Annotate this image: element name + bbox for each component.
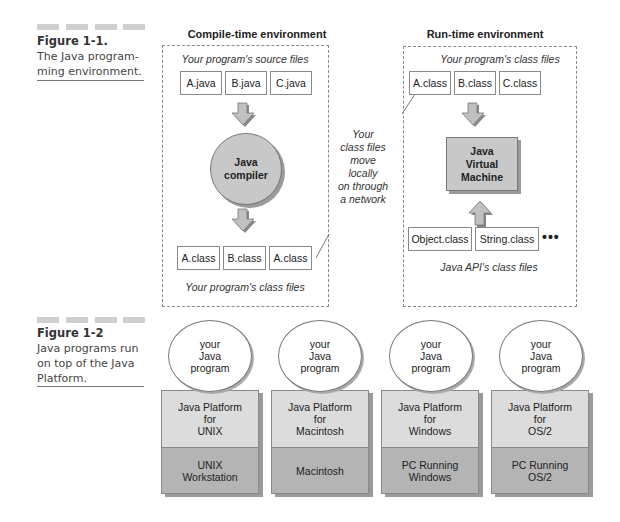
platform-label-line: Java Platform [398, 401, 462, 413]
jvm-label-line: Virtual [466, 158, 498, 171]
figure2-caption-line: Platform. [37, 371, 87, 386]
program-label-line: program [521, 362, 560, 374]
runtime-class-file-box: B.class [454, 71, 496, 95]
program-label-line: Java [309, 350, 331, 362]
platform-label-line: for [314, 413, 326, 425]
platform-label-line: Java Platform [178, 401, 242, 413]
api-class-file-box: String.class [475, 227, 539, 251]
compiler-label-line: compiler [224, 169, 268, 182]
down-arrow-icon [230, 102, 262, 130]
java-platform-layer: Java Platform for Macintosh [271, 390, 369, 448]
down-arrow-icon [460, 102, 492, 130]
caption-rule [37, 80, 144, 81]
runtime-class-file-box: C.class [499, 71, 541, 95]
ellipsis-icon: ••• [542, 229, 560, 245]
compiler-label-line: Java [234, 156, 257, 169]
os-label-line: Windows [409, 471, 452, 483]
java-program-node: your Java program [278, 320, 362, 392]
platform-label-line: for [424, 413, 436, 425]
caption-decoration [123, 24, 145, 30]
note-line: locally [333, 167, 393, 180]
caption-rule [37, 386, 144, 387]
caption-decoration [95, 24, 117, 30]
java-platform-layer: Java Platform for UNIX [161, 390, 259, 448]
os-layer: PC Running Windows [381, 448, 479, 494]
java-program-node: your Java program [389, 320, 473, 392]
platform-label-line: Java Platform [508, 401, 572, 413]
platform-label-line: OS/2 [528, 425, 552, 437]
figure2-title: Figure 1-2 [37, 326, 103, 340]
program-label-line: your [200, 338, 220, 350]
program-label-line: program [190, 362, 229, 374]
class-file-box: B.class [223, 246, 266, 270]
java-program-node: your Java program [499, 320, 583, 392]
platform-label-line: Macintosh [296, 425, 344, 437]
source-files-label: Your program's source files [162, 53, 328, 65]
transfer-note: Your class files move locally on through… [333, 128, 393, 206]
os-label-line: Macintosh [296, 465, 344, 477]
figure1-title: Figure 1-1. [37, 34, 108, 48]
os-layer: PC Running OS/2 [491, 448, 589, 494]
platform-label-line: UNIX [197, 425, 222, 437]
os-label-line: PC Running [402, 459, 459, 471]
os-layer: UNIX Workstation [161, 448, 259, 494]
note-line: move [333, 154, 393, 167]
note-line: Your [333, 128, 393, 141]
java-platform-layer: Java Platform for Windows [381, 390, 479, 448]
class-files-label: Your program's class files [162, 281, 328, 293]
os-label-line: Workstation [182, 471, 237, 483]
class-file-box: A.class [269, 246, 312, 270]
program-label-line: your [531, 338, 551, 350]
caption-decoration [123, 317, 145, 323]
program-label-line: Java [420, 350, 442, 362]
os-layer: Macintosh [271, 448, 369, 494]
platform-label-line: Windows [409, 425, 452, 437]
runtime-class-files-label: Your program's class files [420, 53, 580, 65]
program-label-line: program [300, 362, 339, 374]
api-class-files-label: Java API's class files [403, 261, 575, 273]
caption-decoration [66, 24, 88, 30]
source-file-box: A.java [180, 71, 222, 95]
figure2-caption-line: Java programs run [37, 341, 138, 356]
jvm-label-line: Machine [461, 171, 503, 184]
java-platform-layer: Java Platform for OS/2 [491, 390, 589, 448]
runtime-class-file-box: A.class [409, 71, 451, 95]
figure2-caption-line: on top of the Java [37, 356, 135, 371]
caption-decoration [95, 317, 117, 323]
note-line: class files [333, 141, 393, 154]
caption-decoration [37, 317, 59, 323]
source-file-box: C.java [270, 71, 312, 95]
class-file-box: A.class [177, 246, 220, 270]
caption-decoration [37, 24, 59, 30]
java-program-node: your Java program [168, 320, 252, 392]
figure1-caption-line: ming environment. [37, 64, 142, 79]
api-class-file-box: Object.class [408, 227, 472, 251]
java-virtual-machine-node: Java Virtual Machine [446, 137, 518, 191]
os-label-line: PC Running [512, 459, 569, 471]
platform-label-line: Java Platform [288, 401, 352, 413]
program-label-line: Java [199, 350, 221, 362]
note-line: on through [333, 180, 393, 193]
caption-decoration [66, 317, 88, 323]
program-label-line: program [411, 362, 450, 374]
compile-time-title: Compile-time environment [182, 28, 332, 40]
platform-label-line: for [534, 413, 546, 425]
program-label-line: Java [530, 350, 552, 362]
java-compiler-node: Java compiler [210, 133, 282, 205]
source-file-box: B.java [225, 71, 267, 95]
up-arrow-icon [467, 200, 499, 228]
figure1-caption-line: The Java program- [37, 49, 139, 64]
jvm-label-line: Java [470, 145, 493, 158]
down-arrow-icon [230, 208, 262, 236]
os-label-line: OS/2 [528, 471, 552, 483]
program-label-line: your [421, 338, 441, 350]
program-label-line: your [310, 338, 330, 350]
os-label-line: UNIX [197, 459, 222, 471]
platform-label-line: for [204, 413, 216, 425]
note-line: a network [333, 193, 393, 206]
run-time-title: Run-time environment [420, 28, 550, 40]
